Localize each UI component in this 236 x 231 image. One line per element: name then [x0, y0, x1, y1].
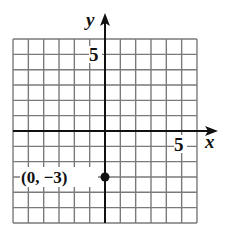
point-label: (0, −3) [21, 168, 68, 187]
data-point [101, 173, 110, 182]
y-axis-label: y [84, 9, 95, 30]
x-tick-label-5: 5 [174, 134, 184, 155]
coordinate-plane: y 5 5 x (0, −3) [0, 0, 236, 231]
x-axis-label: x [204, 131, 215, 152]
y-tick-label-5: 5 [89, 44, 99, 65]
